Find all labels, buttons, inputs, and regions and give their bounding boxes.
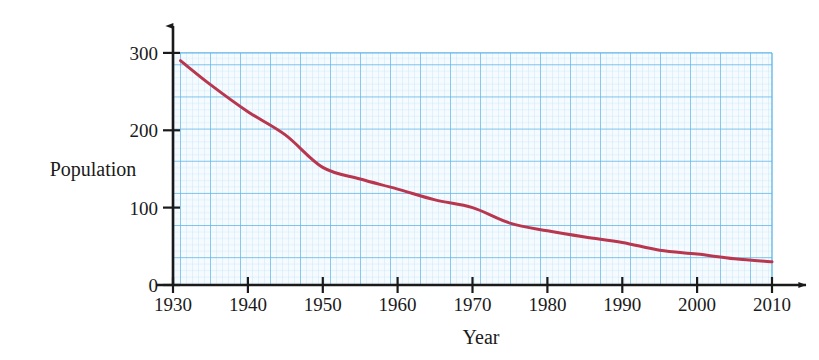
x-tick-label-1930: 1930 (154, 294, 192, 315)
x-tick-label-1990: 1990 (603, 294, 641, 315)
x-tick-label-2000: 2000 (678, 294, 716, 315)
x-tick-label-2010: 2010 (753, 294, 791, 315)
x-axis-title: Year (463, 326, 500, 348)
y-tick-label-100: 100 (130, 198, 159, 219)
population-vs-year-chart: 0 100 200 300 1930 1940 1950 1960 1970 1… (0, 0, 819, 360)
y-tick-label-0: 0 (149, 275, 159, 296)
y-tick-label-300: 300 (130, 43, 159, 64)
x-tick-label-1940: 1940 (229, 294, 267, 315)
plot-grid (173, 53, 772, 285)
chart-figure: 0 100 200 300 1930 1940 1950 1960 1970 1… (0, 0, 819, 360)
x-tick-label-1950: 1950 (304, 294, 342, 315)
x-tick-label-1980: 1980 (528, 294, 566, 315)
x-tick-label-1970: 1970 (454, 294, 492, 315)
y-axis-title: Population (50, 158, 137, 181)
y-tick-label-200: 200 (130, 120, 159, 141)
x-tick-label-1960: 1960 (379, 294, 417, 315)
